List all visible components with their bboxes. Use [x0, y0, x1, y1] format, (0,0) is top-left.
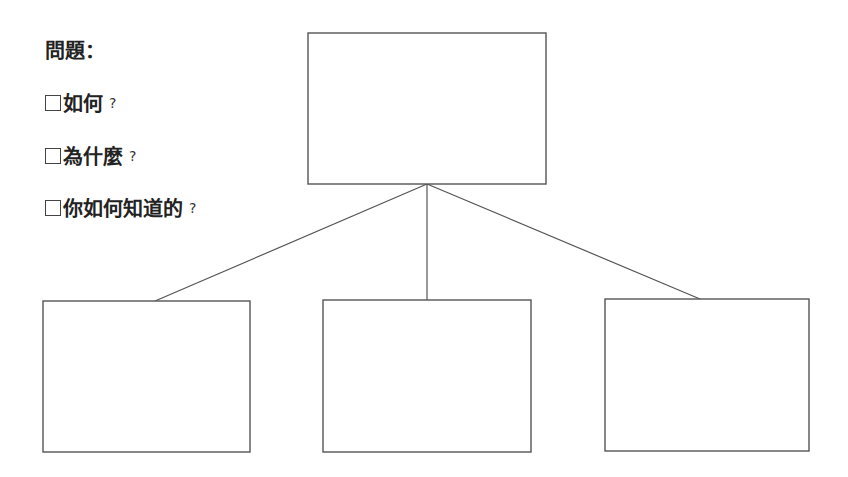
root-box[interactable] — [308, 33, 546, 184]
edge-root-to-left — [155, 184, 427, 301]
tree-diagram — [0, 0, 848, 477]
child-box-right[interactable] — [605, 299, 809, 451]
child-box-middle[interactable] — [323, 300, 531, 452]
child-box-left[interactable] — [43, 301, 250, 452]
edge-root-to-right — [427, 184, 700, 299]
